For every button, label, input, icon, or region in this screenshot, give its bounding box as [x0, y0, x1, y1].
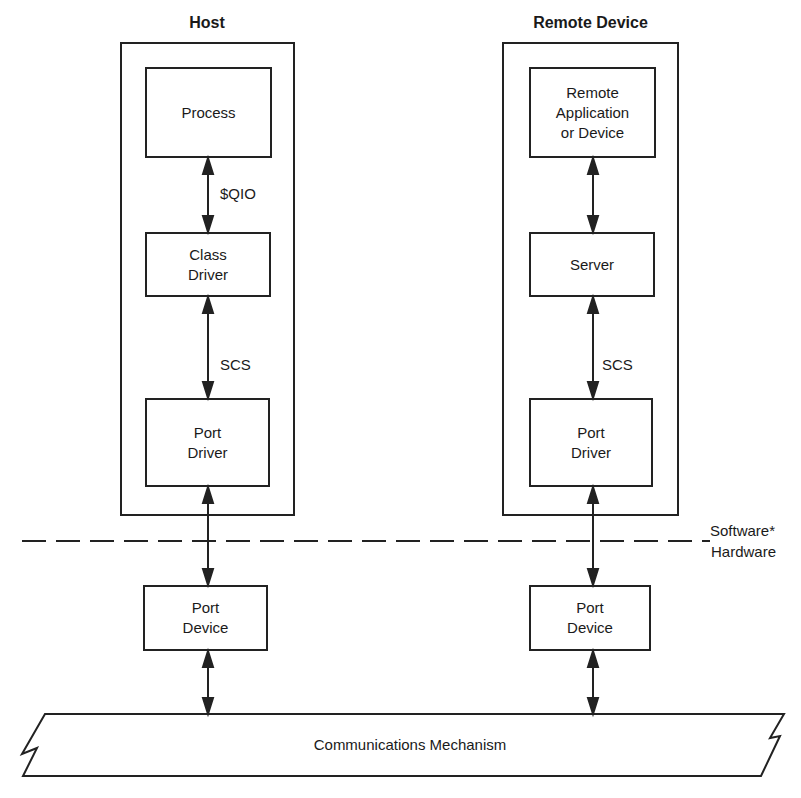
communications-label: Communications Mechanism [290, 736, 530, 753]
host-scs-label: SCS [220, 356, 251, 373]
hardware-label: Hardware [711, 543, 776, 560]
host-port-driver-box: Port Driver [145, 398, 270, 487]
software-label: Software* [710, 522, 775, 539]
host-port-device-box: Port Device [143, 585, 268, 651]
server-box: Server [529, 232, 655, 297]
remote-scs-label: SCS [602, 356, 633, 373]
qio-label: $QIO [220, 185, 256, 202]
remote-title: Remote Device [502, 14, 679, 32]
remote-port-driver-box: Port Driver [529, 398, 653, 487]
host-title: Host [120, 14, 294, 32]
remote-port-device-box: Port Device [529, 585, 651, 651]
class-driver-box: Class Driver [145, 232, 271, 297]
process-box: Process [145, 67, 272, 158]
remote-application-box: Remote Application or Device [529, 67, 656, 158]
